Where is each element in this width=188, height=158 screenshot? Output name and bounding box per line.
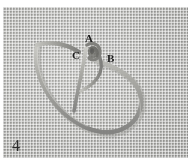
label-a: A xyxy=(85,33,93,44)
label-c: C xyxy=(72,50,80,61)
figure-number: 4 xyxy=(12,138,20,154)
cord-knot-illustration xyxy=(3,7,188,158)
label-b: B xyxy=(107,53,114,64)
photograph: A C B 4 xyxy=(3,7,188,158)
figure-container: A C B 4 xyxy=(0,0,188,158)
knot-core-highlight xyxy=(90,48,94,54)
